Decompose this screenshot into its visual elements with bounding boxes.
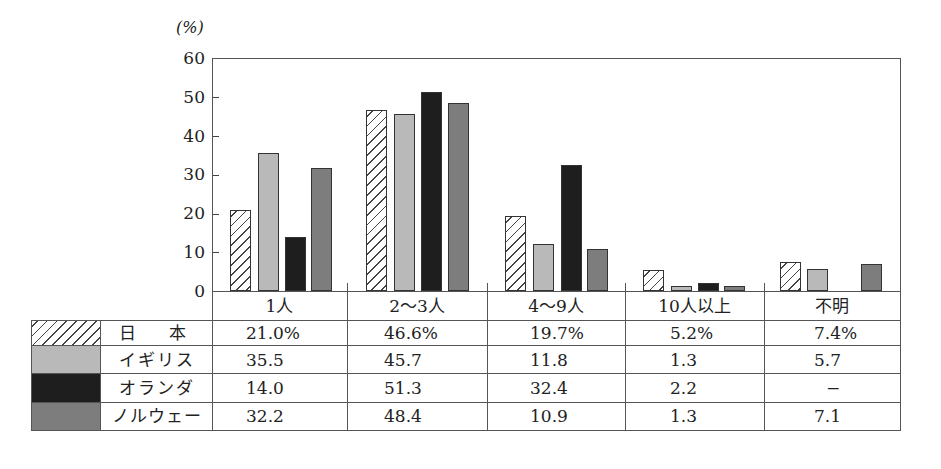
bar-uk-5 xyxy=(807,269,828,291)
category-label: 1人 xyxy=(212,292,347,320)
bar-japan-4 xyxy=(643,270,664,291)
table-cell: 1.3 xyxy=(670,402,697,430)
y-tick-label: 0 xyxy=(165,282,205,300)
table-cell: 19.7% xyxy=(530,319,584,347)
table-cell: 7.1 xyxy=(814,402,841,430)
bar-nl-2 xyxy=(421,92,442,291)
table-cell: 45.7 xyxy=(384,346,422,374)
table-cell: 21.0% xyxy=(246,319,300,347)
table-cell: 51.3 xyxy=(384,374,422,402)
bar-uk-3 xyxy=(533,244,554,291)
bar-nl-3 xyxy=(561,165,582,291)
table-cell: 14.0 xyxy=(246,374,284,402)
bar-no-2 xyxy=(448,103,469,291)
legend-label-uk: イギリス xyxy=(101,346,212,374)
bar-japan-5 xyxy=(780,262,801,291)
legend-label-norway: ノルウェー xyxy=(101,402,212,430)
category-label: 不明 xyxy=(764,292,900,320)
bar-nl-4 xyxy=(698,283,719,291)
y-tick-label: 20 xyxy=(165,204,205,222)
legend-swatch-netherlands xyxy=(32,374,100,402)
legend-swatch-norway xyxy=(32,403,100,430)
legend-label-japan: 日 本 xyxy=(101,319,212,347)
table-cell: 5.2% xyxy=(670,319,713,347)
bar-no-1 xyxy=(311,168,332,291)
bar-no-3 xyxy=(587,249,608,291)
table-cell: 7.4% xyxy=(814,319,857,347)
legend-swatch-japan xyxy=(32,321,100,345)
legend-swatch-uk xyxy=(32,346,100,373)
table-cell: 10.9 xyxy=(530,402,568,430)
table-cell: 46.6% xyxy=(384,319,438,347)
bar-no-4 xyxy=(724,286,745,291)
table-cell: − xyxy=(826,374,840,402)
bar-uk-4 xyxy=(671,286,692,291)
table-cell: 1.3 xyxy=(670,346,697,374)
table-cell: 11.8 xyxy=(530,346,568,374)
bar-japan-3 xyxy=(505,216,526,291)
category-label: 4〜9人 xyxy=(487,292,625,320)
y-tick-label: 10 xyxy=(165,243,205,261)
category-label: 10人以上 xyxy=(625,292,764,320)
y-tick-label: 30 xyxy=(165,165,205,183)
y-tick-label: 50 xyxy=(165,88,205,106)
table-cell: 32.2 xyxy=(246,402,284,430)
bar-nl-1 xyxy=(285,237,306,291)
table-cell: 2.2 xyxy=(670,374,697,402)
table-cell: 35.5 xyxy=(246,346,284,374)
table-cell: 48.4 xyxy=(384,402,422,430)
y-tick-label: 60 xyxy=(165,49,205,67)
bar-uk-1 xyxy=(258,153,279,291)
table-rule xyxy=(31,430,901,431)
table-cell: 5.7 xyxy=(814,346,841,374)
table-cell: 32.4 xyxy=(530,374,568,402)
bar-uk-2 xyxy=(394,114,415,291)
bar-no-5 xyxy=(861,264,882,291)
table-rule xyxy=(900,291,901,431)
bar-japan-2 xyxy=(366,110,387,291)
bar-japan-1 xyxy=(230,210,251,291)
y-tick-label: 40 xyxy=(165,127,205,145)
category-label: 2〜3人 xyxy=(347,292,487,320)
y-axis-unit: (%) xyxy=(176,18,204,37)
legend-label-netherlands: オランダ xyxy=(101,374,212,402)
